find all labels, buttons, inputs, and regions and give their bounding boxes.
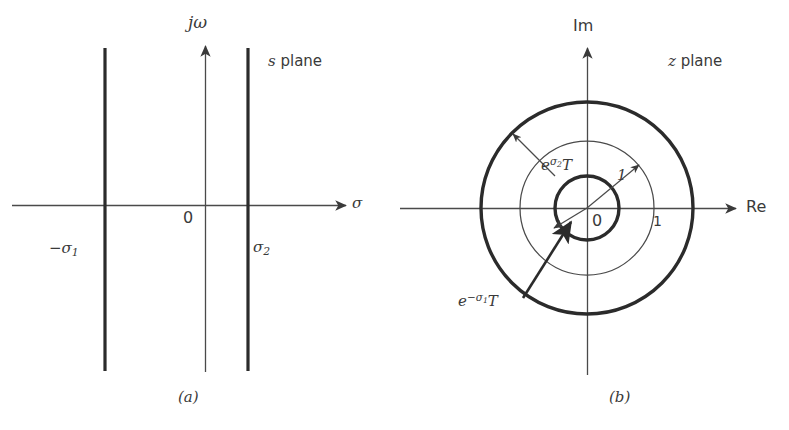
unit-radius-pointer: [587, 165, 639, 208]
figure-container: jω s plane σ 0 −σ1 σ2 (a) Im z plane Re …: [0, 0, 789, 430]
sigma-axis-label: σ: [352, 196, 362, 211]
im-axis-label: Im: [573, 18, 593, 34]
unit-circle-axis-label: 1: [653, 214, 662, 228]
panel-a-origin-label: 0: [183, 210, 193, 226]
long-mapping-arrow: [523, 222, 571, 298]
jomega-axis-label: jω: [188, 14, 207, 31]
panel-a-drawing: [12, 46, 346, 372]
re-axis-label: Re: [746, 199, 766, 215]
panel-b-drawing: [400, 48, 736, 375]
panel-b-origin-label: 0: [592, 213, 602, 229]
s-plane-label: s plane: [268, 54, 322, 69]
panel-b-caption: (b): [609, 390, 630, 405]
minus-sigma1-label: −σ1: [49, 241, 79, 259]
sigma2-label: σ2: [253, 240, 270, 258]
z-plane-label: z plane: [668, 54, 722, 69]
e-minus-sigma1-T-label: e−σ1T: [458, 292, 498, 309]
panel-a-caption: (a): [178, 390, 199, 405]
e-sigma2-T-label: eσ2T: [541, 156, 572, 173]
unit-circle-arrow-label: 1: [617, 168, 627, 183]
